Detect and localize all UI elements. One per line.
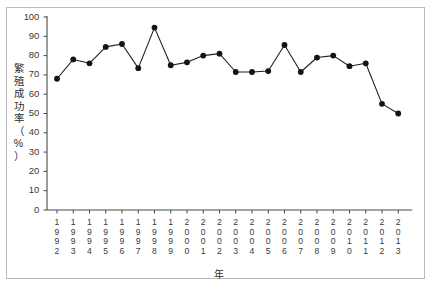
data-point-marker: 1997: 73.5% bbox=[135, 65, 141, 71]
series-line-breeding-success bbox=[57, 28, 398, 114]
data-point-marker: 2006: 85.5% bbox=[282, 42, 288, 48]
chart-figure: 繁殖成功率（%） 0102030405060708090100 19921993… bbox=[0, 0, 438, 295]
data-point-marker: 1993: 78% bbox=[70, 57, 76, 63]
data-point-marker: 2003: 71.5% bbox=[233, 69, 239, 75]
data-point-marker: 1995: 84.5% bbox=[103, 44, 109, 50]
data-point-marker: 2011: 76% bbox=[363, 60, 369, 66]
data-point-marker: 1998: 94.5% bbox=[152, 25, 158, 31]
chart-axes bbox=[47, 16, 412, 210]
data-point-marker: 2001: 80% bbox=[200, 53, 206, 59]
data-point-marker: 2005: 72% bbox=[265, 68, 271, 74]
data-point-marker: 2007: 71.5% bbox=[298, 69, 304, 75]
line-chart-plot: 1992: 68%1993: 78%1994: 76%1995: 84.5%19… bbox=[0, 0, 438, 295]
data-point-marker: 2012: 55% bbox=[379, 101, 385, 107]
data-point-marker: 2004: 71.5% bbox=[249, 69, 255, 75]
data-point-marker: 2010: 74.5% bbox=[347, 63, 353, 69]
data-point-marker: 2008: 79% bbox=[314, 55, 320, 61]
data-point-marker: 1994: 76% bbox=[87, 60, 93, 66]
data-point-marker: 1999: 75% bbox=[168, 62, 174, 68]
data-point-marker: 2002: 81% bbox=[217, 51, 223, 57]
data-point-marker: 1996: 86% bbox=[119, 41, 125, 47]
data-point-marker: 2013: 50% bbox=[395, 111, 401, 117]
data-point-marker: 1992: 68% bbox=[54, 76, 60, 82]
data-point-marker: 2000: 76.5% bbox=[184, 59, 190, 65]
series-markers: 1992: 68%1993: 78%1994: 76%1995: 84.5%19… bbox=[54, 25, 401, 117]
chart-ticks bbox=[44, 17, 399, 214]
data-point-marker: 2009: 80% bbox=[330, 53, 336, 59]
